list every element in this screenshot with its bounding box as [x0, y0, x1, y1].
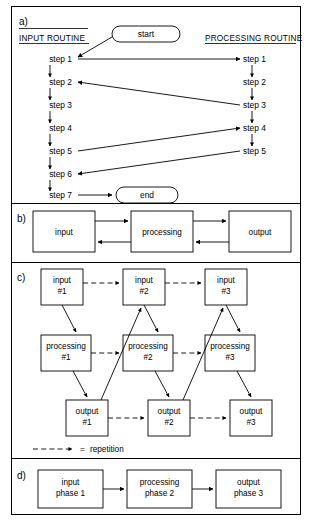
panel-c-output-3-line1: output	[240, 407, 263, 416]
panel-a: a) INPUT ROUTINE PROCESSING ROUTINE star…	[19, 16, 303, 203]
panel-b-input-label: input	[55, 228, 73, 237]
left-step-1: step 1	[49, 54, 72, 64]
arrow-processing1-to-output1	[73, 371, 87, 397]
panel-c-output-2-line2: #2	[164, 418, 174, 427]
panel-c-input-3-line1: input	[217, 276, 235, 285]
flowchart-figure: a) INPUT ROUTINE PROCESSING ROUTINE star…	[0, 0, 312, 521]
input-routine-heading: INPUT ROUTINE	[19, 34, 85, 43]
panel-c-processing-2-line1: processing	[128, 342, 168, 351]
panel-c-processing-2-line2: #2	[143, 353, 153, 362]
panel-c-input-1-line2: #1	[57, 287, 67, 296]
panel-d-processing-line1: processing	[140, 478, 180, 487]
panel-d-label: d)	[17, 470, 26, 481]
legend-repetition-text: repetition	[90, 445, 124, 454]
panel-c-output-1-line2: #1	[82, 418, 92, 427]
panel-c-input-2-line1: input	[135, 276, 153, 285]
right-step-2: step 2	[243, 77, 266, 87]
panel-c-output-1-line1: output	[76, 407, 99, 416]
left-step-5: step 5	[49, 146, 72, 156]
arrow-processing3-to-output3	[237, 371, 251, 397]
panel-c-input-1-line1: input	[53, 276, 71, 285]
left-step-6: step 6	[49, 169, 72, 179]
panel-b-processing-label: processing	[142, 228, 182, 237]
panel-c-processing-3-line2: #3	[225, 353, 235, 362]
legend-equals: =	[80, 445, 85, 454]
arrow-processing2-to-output2	[155, 371, 169, 397]
panel-c-label: c)	[17, 272, 25, 283]
right-step-1: step 1	[243, 54, 266, 64]
panel-b-label: b)	[17, 213, 26, 224]
arrow-left5-to-right4	[78, 128, 240, 151]
panel-c-input-2-line2: #2	[139, 287, 149, 296]
panel-c-input-3-line2: #3	[221, 287, 231, 296]
panel-d-input-line1: input	[62, 478, 80, 487]
right-step-3: step 3	[243, 100, 266, 110]
panel-c-output-3-line2: #3	[246, 418, 256, 427]
right-step-5: step 5	[243, 146, 266, 156]
start-label: start	[138, 29, 155, 39]
left-step-4: step 4	[49, 123, 72, 133]
left-step-2: step 2	[49, 77, 72, 87]
right-step-4: step 4	[243, 123, 266, 133]
panel-a-label: a)	[19, 16, 28, 27]
arrow-right3-to-left2	[78, 82, 240, 105]
left-step-7: step 7	[49, 190, 72, 200]
arrow-input3-to-processing3	[226, 305, 240, 332]
panel-d-output-line2: phase 3	[234, 489, 264, 498]
panel-c-processing-1-line2: #1	[61, 353, 71, 362]
left-step-3: step 3	[49, 100, 72, 110]
panel-d-processing-line2: phase 2	[145, 489, 175, 498]
panel-b: b) input processing output	[17, 211, 291, 252]
arrow-input1-to-processing1	[62, 305, 76, 332]
panel-c-processing-3-line1: processing	[210, 342, 250, 351]
panel-c-processing-1-line1: processing	[46, 342, 86, 351]
panel-c: c) input #1 input #2 input #3 processing…	[17, 269, 272, 454]
panel-c-output-2-line1: output	[158, 407, 181, 416]
arrow-right5-to-left6	[78, 151, 240, 174]
end-label: end	[140, 190, 154, 200]
panel-d-output-line1: output	[237, 478, 260, 487]
arrow-input2-to-processing2	[144, 305, 158, 332]
panel-b-output-label: output	[249, 228, 272, 237]
panel-d: d) input phase 1 processing phase 2 outp…	[17, 470, 281, 508]
processing-routine-heading: PROCESSING ROUTINE	[205, 34, 303, 43]
panel-d-input-line2: phase 1	[56, 489, 86, 498]
